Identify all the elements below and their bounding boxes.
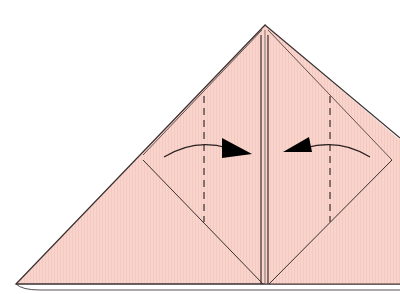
outer-triangle-right <box>265 25 400 284</box>
bottom-layer-edge <box>16 284 400 290</box>
origami-diagram <box>0 0 400 294</box>
